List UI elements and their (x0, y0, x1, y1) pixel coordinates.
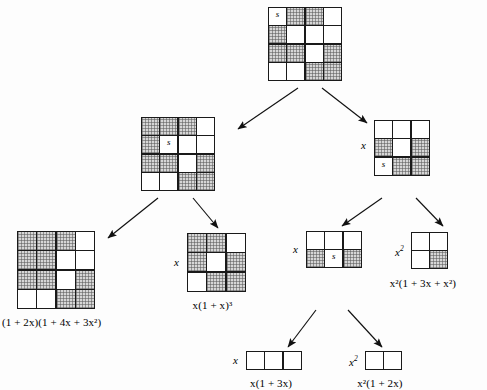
grid-cell-empty (160, 173, 177, 190)
grid-cell-empty (207, 253, 225, 271)
grid-cell-shaded (18, 271, 36, 289)
grid-cell-shaded (188, 253, 206, 271)
mid-left-grid-cells: s (141, 117, 215, 191)
grid-cell-shaded (412, 158, 429, 175)
grid-cell-empty (188, 273, 206, 291)
grid-cell-shaded (37, 232, 55, 250)
grid-cell-shaded (179, 173, 196, 190)
arrow-mid-bottom-to-x-row (288, 310, 316, 347)
grid-cell-empty (142, 173, 159, 190)
grid-cell-empty (412, 233, 429, 250)
grid-cell-empty (57, 251, 75, 269)
bottom-left-grid-cells (17, 231, 95, 309)
grid-cell-shaded (76, 290, 94, 308)
arrow-mid-right-to-x2-small (416, 198, 443, 226)
x-squared-one-plus-2x-grid-cells (365, 351, 402, 370)
s-marker-label: s (375, 158, 392, 169)
grid-cell-empty (324, 26, 341, 43)
x-squared-one-plus-2x-grid (365, 351, 402, 370)
root-grid-cells: s (268, 7, 342, 81)
grid-cell-empty (179, 136, 196, 153)
grid-cell-shaded (197, 173, 214, 190)
grid-cell-empty (287, 63, 304, 80)
grid-cell-shaded (197, 155, 214, 172)
grid-cell-shaded (269, 26, 286, 43)
x-squared-two-by-two-grid-caption: x²(1 + 3x + x²) (390, 278, 456, 289)
grid-cell-shaded (57, 232, 75, 250)
x-three-by-two-grid: s (306, 231, 362, 268)
arrow-layer (0, 0, 487, 390)
grid-cell-shaded (142, 136, 159, 153)
s-marker-label: s (269, 8, 286, 19)
arrow-mid-bottom-to-x2-row (348, 310, 382, 347)
grid-cell-empty (265, 352, 282, 369)
diagram-canvas: ssxs(1 + 2x)(1 + 4x + 3x²)xx(1 + x)³xsx2… (0, 0, 487, 390)
grid-cell-empty (247, 352, 264, 369)
x-squared-two-by-two-grid (411, 232, 448, 269)
root-grid: s (268, 7, 342, 81)
grid-cell-empty (284, 352, 301, 369)
grid-cell-empty (287, 26, 304, 43)
grid-cell-empty (76, 251, 94, 269)
grid-cell-shaded (188, 234, 206, 252)
grid-cell-empty (325, 232, 342, 249)
x-three-by-two-grid-side-label: x (293, 244, 298, 255)
grid-cell-empty: s (160, 136, 177, 153)
x-one-plus-x-cubed-grid-caption: x(1 + x)³ (193, 300, 233, 311)
grid-cell-empty (307, 232, 324, 249)
x-squared-one-plus-2x-grid-side-label: x2 (349, 355, 358, 368)
mid-right-grid-side-label: x (361, 140, 366, 151)
grid-cell-empty (393, 121, 410, 138)
grid-cell-empty (227, 234, 245, 252)
arrow-mid-left-to-x-cubed (193, 198, 218, 228)
s-marker-label: s (325, 250, 342, 261)
arrow-root-to-mid-left (238, 88, 298, 129)
grid-cell-empty (269, 63, 286, 80)
x-three-by-two-grid-cells: s (306, 231, 362, 268)
grid-cell-empty (324, 8, 341, 25)
grid-cell-empty (37, 290, 55, 308)
x-one-plus-x-cubed-grid (187, 233, 246, 292)
arrow-root-to-mid-right (322, 88, 367, 123)
grid-cell-shaded (375, 139, 392, 156)
grid-cell-empty (412, 121, 429, 138)
grid-cell-shaded (269, 45, 286, 62)
x-one-plus-3x-grid-cells (246, 351, 302, 370)
grid-cell-empty (197, 118, 214, 135)
grid-cell-shaded (37, 251, 55, 269)
grid-cell-empty (384, 352, 401, 369)
x-one-plus-3x-grid-side-label: x (233, 355, 238, 366)
arrow-mid-left-to-bottom-left (108, 198, 158, 238)
s-marker-label: s (160, 136, 177, 147)
grid-cell-empty (76, 232, 94, 250)
grid-cell-shaded (307, 250, 324, 267)
grid-cell-empty (393, 139, 410, 156)
grid-cell-shaded (142, 155, 159, 172)
grid-cell-empty (412, 251, 429, 268)
bottom-left-grid (17, 231, 95, 309)
grid-cell-shaded (179, 118, 196, 135)
grid-cell-shaded (160, 155, 177, 172)
grid-cell-shaded (207, 234, 225, 252)
grid-cell-shaded (430, 251, 447, 268)
arrow-mid-right-to-mid-bottom (342, 198, 382, 226)
grid-cell-shaded (306, 63, 323, 80)
bottom-left-grid-caption: (1 + 2x)(1 + 4x + 3x²) (2, 317, 101, 328)
mid-left-grid: s (141, 117, 215, 191)
x-one-plus-x-cubed-grid-cells (187, 233, 246, 292)
grid-cell-empty: s (325, 250, 342, 267)
grid-cell-shaded (227, 253, 245, 271)
grid-cell-empty (179, 155, 196, 172)
grid-cell-shaded (227, 273, 245, 291)
grid-cell-shaded (37, 271, 55, 289)
grid-cell-empty (197, 136, 214, 153)
grid-cell-empty (18, 290, 36, 308)
grid-cell-shaded (393, 158, 410, 175)
grid-cell-shaded (160, 118, 177, 135)
grid-cell-empty: s (269, 8, 286, 25)
x-one-plus-3x-grid (246, 351, 302, 370)
grid-cell-empty (375, 121, 392, 138)
grid-cell-shaded (306, 8, 323, 25)
grid-cell-empty (366, 352, 383, 369)
x-squared-two-by-two-grid-side-label: x2 (395, 245, 404, 258)
